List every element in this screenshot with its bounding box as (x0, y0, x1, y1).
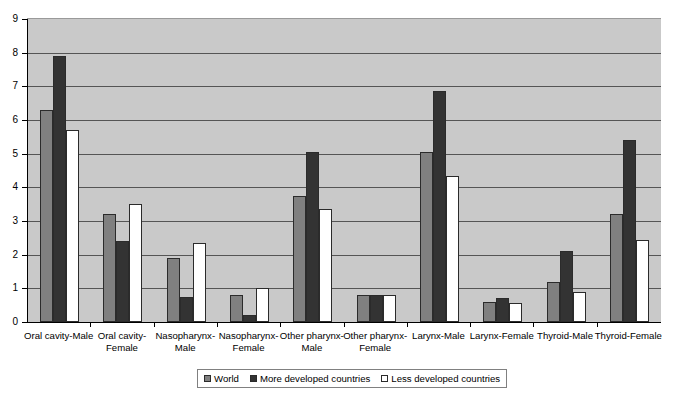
x-axis-label: Other pharynx-Female (340, 330, 411, 354)
bar-more (53, 56, 66, 322)
x-axis-labels: Oral cavity-MaleOral cavity-FemaleNasoph… (27, 330, 661, 364)
bar-more (306, 152, 319, 322)
y-tick-label: 5 (12, 149, 18, 159)
bar-more (496, 298, 509, 322)
legend-item: More developed countries (250, 373, 370, 384)
x-axis-label: Oral cavity-Female (86, 330, 157, 354)
legend-item: World (204, 373, 239, 384)
x-axis-label: Larynx-Male (403, 330, 474, 342)
x-axis-separator (407, 322, 408, 327)
legend-swatch-icon (250, 375, 257, 382)
y-tick-label: 7 (12, 81, 18, 91)
bar-chart: 0123456789 Oral cavity-MaleOral cavity-F… (0, 0, 673, 396)
bar-more (116, 241, 129, 322)
legend-label: More developed countries (260, 373, 370, 384)
legend-swatch-icon (204, 375, 211, 382)
bar-less (383, 295, 396, 322)
bar-world (483, 302, 496, 322)
bar-world (357, 295, 370, 322)
bar-world (547, 282, 560, 322)
bar-less (636, 240, 649, 322)
x-axis-label: Larynx-Female (466, 330, 537, 342)
legend-item: Less developed countries (381, 373, 500, 384)
x-axis-separator (344, 322, 345, 327)
x-axis-label: Nasopharynx-Female (213, 330, 284, 354)
y-tick-label: 0 (12, 317, 18, 327)
bar-world (293, 196, 306, 322)
bar-less (193, 243, 206, 322)
bar-less (319, 209, 332, 322)
y-tick-label: 6 (12, 115, 18, 125)
bars-layer (28, 19, 661, 322)
x-axis-label: Nasopharynx-Male (150, 330, 221, 354)
chart-legend: WorldMore developed countriesLess develo… (197, 369, 507, 388)
x-axis-label: Other pharynx-Male (276, 330, 347, 354)
x-axis-separator (90, 322, 91, 327)
y-tick-label: 9 (12, 14, 18, 24)
bar-world (610, 214, 623, 322)
x-axis-separator (597, 322, 598, 327)
legend-label: World (214, 373, 239, 384)
bar-more (560, 251, 573, 322)
bar-more (370, 295, 383, 322)
bar-less (129, 204, 142, 322)
bar-world (420, 152, 433, 322)
y-axis: 0123456789 (0, 13, 27, 329)
x-axis-separator (280, 322, 281, 327)
bar-less (66, 130, 79, 322)
legend-label: Less developed countries (391, 373, 500, 384)
bar-less (509, 303, 522, 322)
bar-more (623, 140, 636, 322)
y-tick-label: 2 (12, 250, 18, 260)
x-axis-separator (470, 322, 471, 327)
plot-area (27, 19, 661, 323)
y-tick-label: 1 (12, 283, 18, 293)
legend-swatch-icon (381, 375, 388, 382)
x-axis-separator (154, 322, 155, 327)
x-axis-separator (217, 322, 218, 327)
y-tick-label: 8 (12, 48, 18, 58)
x-axis-label: Thyroid-Male (529, 330, 600, 342)
y-tick-label: 4 (12, 182, 18, 192)
bar-more (243, 315, 256, 322)
bar-less (446, 176, 459, 322)
bar-world (40, 110, 53, 322)
bar-world (103, 214, 116, 322)
bar-less (573, 292, 586, 322)
bar-more (433, 91, 446, 322)
bar-more (180, 297, 193, 322)
x-axis-separator (533, 322, 534, 327)
y-tick-label: 3 (12, 216, 18, 226)
x-axis-label: Thyroid-Female (593, 330, 664, 342)
bar-less (256, 288, 269, 322)
bar-world (167, 258, 180, 322)
x-axis-label: Oral cavity-Male (23, 330, 94, 342)
bar-world (230, 295, 243, 322)
